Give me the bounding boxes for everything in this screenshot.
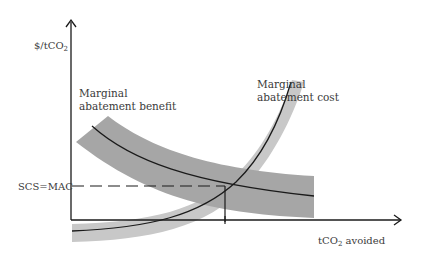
benefit-label-line2: abatement benefit xyxy=(79,100,177,112)
x-axis-label: tCO2 avoided xyxy=(318,235,386,248)
cost-label-line2: abatement cost xyxy=(257,91,340,103)
cost-label-line1: Marginal xyxy=(257,78,306,90)
equilibrium-label: SCS=MAC xyxy=(18,181,73,192)
y-axis-label: $/tCO2 xyxy=(34,40,68,53)
abatement-diagram: $/tCO2 tCO2 avoided Marginal abatement b… xyxy=(0,0,422,257)
benefit-label-line1: Marginal xyxy=(79,87,128,99)
